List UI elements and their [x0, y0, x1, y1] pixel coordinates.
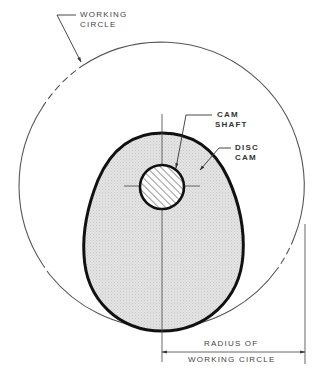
cam-shaft-label-line1: CAM	[215, 110, 248, 120]
disc-cam	[84, 133, 244, 331]
working-circle-label: WORKING CIRCLE	[80, 10, 128, 30]
disc-cam-label: DISC CAM	[235, 143, 259, 163]
radius-label-bottom: WORKING CIRCLE	[188, 355, 275, 365]
disc-cam-label-line1: DISC	[235, 143, 259, 153]
cam-shaft-label: CAM SHAFT	[215, 110, 248, 130]
working-circle-label-line2: CIRCLE	[80, 20, 128, 30]
cam-shaft-label-line2: SHAFT	[215, 120, 248, 130]
working-circle-leader	[57, 15, 81, 62]
disc-cam-diagram	[0, 0, 313, 376]
working-circle-label-line1: WORKING	[80, 10, 128, 20]
disc-cam-label-line2: CAM	[235, 153, 259, 163]
radius-label-top: RADIUS OF	[204, 339, 258, 349]
